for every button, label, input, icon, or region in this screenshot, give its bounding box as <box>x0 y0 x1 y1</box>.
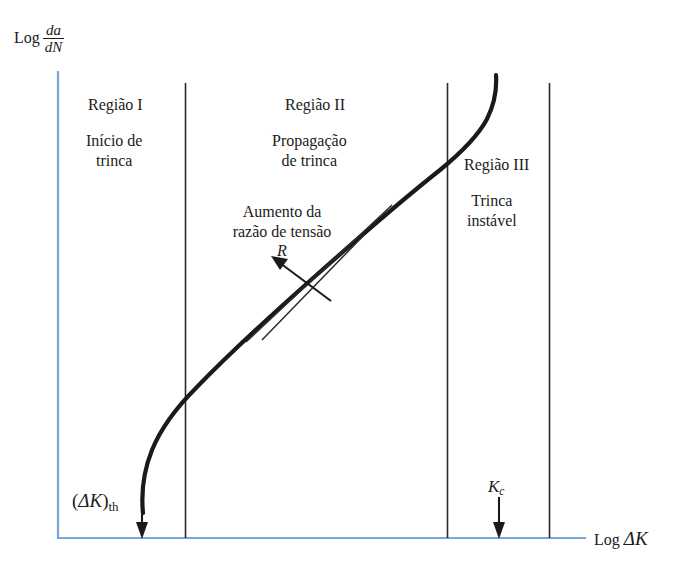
region-1-subtitle-line-1: Início de <box>86 131 142 151</box>
kc-arrow <box>493 497 505 539</box>
x-axis-label-symbol: ΔK <box>624 528 648 549</box>
region-dividers <box>186 83 550 538</box>
region-3-subtitle-line-1: Trinca <box>467 191 517 211</box>
threshold-k: K <box>89 490 102 511</box>
critical-k-symbol: K <box>488 477 499 496</box>
region-3-subtitle: Trinca instável <box>467 191 517 230</box>
region-2-title: Região II <box>285 95 345 115</box>
threshold-arrow <box>136 494 148 539</box>
region-3-subtitle-line-2: instável <box>467 211 517 231</box>
region-2-subtitle: Propagação de trinca <box>272 131 347 170</box>
stress-ratio-annotation: Aumento da razão de tensão R <box>197 202 367 261</box>
stress-ratio-symbol: R <box>197 241 367 261</box>
region-2-subtitle-line-2: de trinca <box>272 151 347 171</box>
threshold-label: (ΔK)th <box>72 489 119 514</box>
region-2-subtitle-line-1: Propagação <box>272 131 347 151</box>
region-1-subtitle: Início de trinca <box>86 131 142 170</box>
threshold-delta: Δ <box>78 490 89 511</box>
y-axis-label-numerator: da <box>43 22 65 39</box>
diagram-canvas <box>0 0 691 573</box>
y-axis-label-prefix: Log <box>14 29 40 46</box>
y-axis-label-fraction: dadN <box>43 22 65 55</box>
region-3-title: Região III <box>464 155 529 175</box>
fatigue-crack-growth-figure: LogdadN Log ΔK Região I Início de trinca… <box>0 0 691 573</box>
x-axis-label-prefix: Log <box>594 531 620 548</box>
stress-ratio-line-1: Aumento da <box>197 202 367 222</box>
x-axis-label: Log ΔK <box>594 527 648 550</box>
y-axis-label-denominator: dN <box>43 39 65 55</box>
stress-ratio-line-2: razão de tensão <box>197 222 367 242</box>
critical-k-label: Kc <box>488 477 504 499</box>
region-1-subtitle-line-2: trinca <box>86 151 142 171</box>
critical-k-subscript: c <box>499 485 504 498</box>
threshold-subscript: th <box>109 499 119 514</box>
y-axis-label: LogdadN <box>14 22 64 55</box>
region-1-title: Região I <box>88 95 143 115</box>
